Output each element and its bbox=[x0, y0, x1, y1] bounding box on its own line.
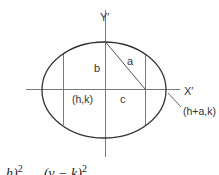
center-label: (h,k) bbox=[72, 93, 93, 105]
label-b: b bbox=[94, 62, 100, 74]
vertex-leader-line bbox=[168, 93, 181, 107]
equation-exp-x: 2 bbox=[18, 163, 23, 174]
label-a: a bbox=[127, 55, 134, 67]
equation-fragment: h)2 (y − k)2 bbox=[6, 163, 87, 175]
equation-term-y: (y − k) bbox=[44, 166, 82, 175]
ellipse-diagram: Y′ X′ b a c (h,k) (h+a,k) h)2 (y − k)2 bbox=[0, 0, 219, 175]
diagram-canvas: Y′ X′ b a c (h,k) (h+a,k) bbox=[0, 0, 219, 175]
y-axis-label: Y′ bbox=[100, 11, 109, 23]
equation-exp-y: 2 bbox=[82, 163, 87, 174]
equation-term-x: h) bbox=[6, 166, 18, 175]
x-axis-label: X′ bbox=[184, 85, 193, 97]
label-c: c bbox=[120, 93, 126, 105]
semi-major-segment bbox=[106, 42, 146, 90]
vertex-label: (h+a,k) bbox=[183, 105, 216, 117]
